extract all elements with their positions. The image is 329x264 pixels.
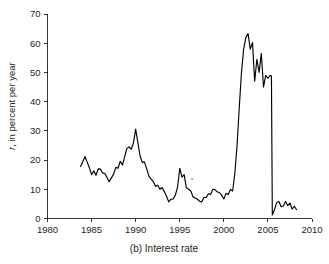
- y-tick-label: 60: [30, 38, 41, 49]
- y-axis-title-rest: , in percent per year: [6, 62, 17, 147]
- y-tick-label: 70: [30, 8, 41, 19]
- y-tick-label: 20: [30, 154, 41, 165]
- x-tick-label: 1980: [37, 224, 58, 235]
- x-tick-label: 1990: [125, 224, 146, 235]
- series-group: [81, 34, 297, 215]
- y-tick-label: 40: [30, 96, 41, 107]
- interest-rate-line: [81, 34, 297, 215]
- x-tick-label: 2000: [213, 224, 234, 235]
- y-axis-title: r, in percent per year: [6, 62, 17, 150]
- figure-caption: (b) Interest rate: [130, 243, 199, 254]
- interest-rate-figure: 010203040506070 198019851990199520002005…: [0, 0, 329, 264]
- x-tick-label: 2010: [301, 224, 322, 235]
- y-tick-label: 30: [30, 125, 41, 136]
- x-axis-ticks: 1980198519901995200020052010: [37, 219, 323, 235]
- stray-mark: [191, 178, 193, 180]
- annotation-group: [191, 178, 193, 180]
- y-tick-label: 50: [30, 67, 41, 78]
- y-tick-label: 10: [30, 184, 41, 195]
- y-tick-label: 0: [35, 213, 40, 224]
- x-tick-label: 2005: [257, 224, 278, 235]
- x-tick-label: 1985: [81, 224, 102, 235]
- y-axis-ticks: 010203040506070: [30, 8, 48, 224]
- x-tick-label: 1995: [169, 224, 190, 235]
- chart-canvas: 010203040506070 198019851990199520002005…: [0, 0, 329, 264]
- svg-text:r, in percent per year: r, in percent per year: [6, 62, 17, 150]
